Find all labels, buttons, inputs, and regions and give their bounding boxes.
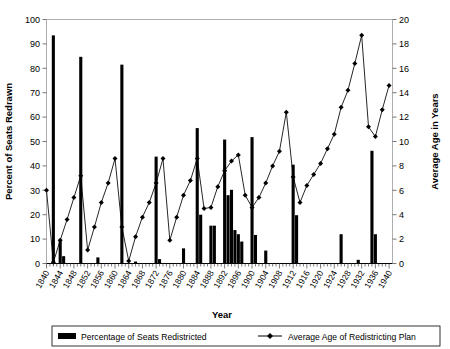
y2-tick-label: 12 bbox=[399, 112, 409, 122]
diamond-marker bbox=[277, 149, 282, 154]
diamond-marker bbox=[71, 195, 76, 200]
x-axis-title: Year bbox=[212, 309, 232, 320]
bar bbox=[374, 234, 377, 263]
bar bbox=[158, 259, 161, 263]
diamond-marker bbox=[373, 134, 378, 139]
diamond-marker bbox=[126, 259, 131, 264]
bar bbox=[340, 234, 343, 263]
diamond-marker bbox=[140, 215, 145, 220]
line-series bbox=[47, 35, 390, 262]
y2-tick-label: 20 bbox=[399, 15, 409, 25]
bar bbox=[96, 257, 99, 263]
diamond-marker bbox=[318, 161, 323, 166]
diamond-marker bbox=[304, 183, 309, 188]
bar bbox=[62, 256, 65, 263]
chart-canvas: 0102030405060708090100024681012141618201… bbox=[0, 0, 450, 349]
diamond-marker bbox=[78, 173, 83, 178]
bar bbox=[155, 157, 158, 264]
bar bbox=[237, 234, 240, 263]
diamond-marker bbox=[195, 156, 200, 161]
diamond-marker bbox=[366, 124, 371, 129]
diamond-marker bbox=[311, 172, 316, 177]
bar bbox=[199, 215, 202, 264]
diamond-marker bbox=[51, 260, 56, 265]
diamond-marker bbox=[188, 178, 193, 183]
y-axis-title: Percent of Seats Redrawn bbox=[3, 83, 14, 200]
diamond-marker bbox=[92, 224, 97, 229]
bar bbox=[230, 190, 233, 264]
diamond-marker bbox=[106, 180, 111, 185]
bar bbox=[213, 226, 216, 264]
bar bbox=[182, 248, 185, 263]
y-tick-label: 40 bbox=[30, 161, 40, 171]
x-tick-label: 1940 bbox=[376, 268, 394, 290]
y-tick-label: 10 bbox=[30, 234, 40, 244]
y2-tick-label: 4 bbox=[399, 210, 404, 220]
y2-tick-label: 6 bbox=[399, 186, 404, 196]
y-tick-label: 100 bbox=[25, 15, 40, 25]
diamond-marker bbox=[263, 180, 268, 185]
diamond-marker bbox=[359, 33, 364, 38]
diamond-marker bbox=[65, 217, 70, 222]
bar bbox=[295, 215, 298, 263]
bar bbox=[254, 235, 257, 264]
y-tick-label: 50 bbox=[30, 137, 40, 147]
diamond-marker bbox=[345, 88, 350, 93]
y2-tick-label: 18 bbox=[399, 39, 409, 49]
diamond-marker bbox=[270, 163, 275, 168]
bar bbox=[240, 242, 243, 264]
y2-tick-label: 8 bbox=[399, 161, 404, 171]
legend-label-line: Average Age of Redistricting Plan bbox=[288, 332, 416, 342]
diamond-marker bbox=[332, 132, 337, 137]
diamond-marker bbox=[202, 206, 207, 211]
bar bbox=[233, 230, 236, 263]
diamond-marker bbox=[113, 156, 118, 161]
diamond-marker bbox=[325, 146, 330, 151]
diamond-marker bbox=[99, 200, 104, 205]
bar bbox=[227, 195, 230, 263]
y2-tick-label: 16 bbox=[399, 64, 409, 74]
diamond-marker bbox=[85, 248, 90, 253]
line-markers bbox=[44, 33, 392, 265]
bar bbox=[196, 128, 199, 263]
diamond-marker bbox=[243, 193, 248, 198]
bar bbox=[223, 140, 226, 264]
diamond-marker bbox=[167, 238, 172, 243]
diamond-marker bbox=[147, 200, 152, 205]
diamond-marker bbox=[291, 174, 296, 179]
diamond-marker bbox=[380, 107, 385, 112]
y-tick-label: 90 bbox=[30, 39, 40, 49]
diamond-marker bbox=[174, 215, 179, 220]
diamond-marker bbox=[387, 83, 392, 88]
y-tick-label: 80 bbox=[30, 64, 40, 74]
diamond-marker bbox=[222, 168, 227, 173]
y2-tick-label: 10 bbox=[399, 137, 409, 147]
diamond-marker bbox=[215, 184, 220, 189]
diamond-marker bbox=[256, 195, 261, 200]
y-tick-label: 60 bbox=[30, 112, 40, 122]
diamond-marker bbox=[250, 205, 255, 210]
y-tick-label: 20 bbox=[30, 210, 40, 220]
diamond-marker bbox=[284, 110, 289, 115]
legend-bar-swatch bbox=[58, 333, 76, 339]
bar bbox=[357, 260, 360, 264]
bar bbox=[264, 251, 267, 264]
bar bbox=[134, 262, 137, 264]
diamond-marker bbox=[339, 105, 344, 110]
diamond-marker bbox=[352, 61, 357, 66]
y2-axis-title: Average Age in Years bbox=[429, 93, 440, 189]
y2-tick-label: 14 bbox=[399, 88, 409, 98]
legend-label-bars: Percentage of Seats Redistricted bbox=[81, 332, 207, 342]
bar bbox=[79, 57, 82, 264]
diamond-marker bbox=[298, 200, 303, 205]
y-tick-label: 0 bbox=[35, 259, 40, 269]
y-tick-label: 30 bbox=[30, 186, 40, 196]
bar bbox=[209, 226, 212, 264]
diamond-marker bbox=[44, 188, 49, 193]
diamond-marker bbox=[154, 180, 159, 185]
bar bbox=[52, 35, 55, 263]
diamond-marker bbox=[58, 238, 63, 243]
diamond-marker bbox=[119, 224, 124, 229]
y2-tick-label: 2 bbox=[399, 234, 404, 244]
diamond-marker bbox=[208, 205, 213, 210]
